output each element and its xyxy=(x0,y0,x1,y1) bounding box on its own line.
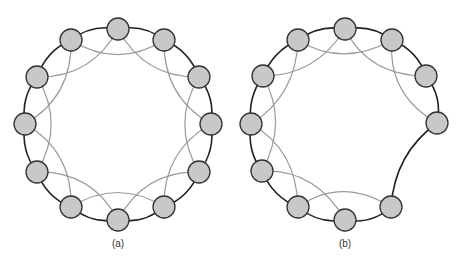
graph-node xyxy=(380,196,402,218)
graph-node xyxy=(252,65,274,87)
graph-node xyxy=(240,113,262,135)
graph-node xyxy=(188,66,210,88)
chord-edge xyxy=(262,76,276,171)
graph-node xyxy=(188,161,210,183)
graph-node xyxy=(26,161,48,183)
graph-node xyxy=(251,160,273,182)
graph-node xyxy=(153,29,175,51)
graph-node xyxy=(153,196,175,218)
graph-node xyxy=(107,18,129,40)
bridge-edge xyxy=(391,123,437,207)
chord-edge xyxy=(185,77,199,172)
chord-edge xyxy=(71,192,164,207)
graph-node xyxy=(426,112,448,134)
graph-node xyxy=(60,29,82,51)
chord-edge xyxy=(37,77,51,172)
graph-node xyxy=(334,209,356,231)
chord-edge xyxy=(71,40,164,55)
graph-node xyxy=(14,113,36,135)
graph-node xyxy=(200,113,222,135)
graph-node xyxy=(334,18,356,40)
graph-node xyxy=(287,29,309,51)
graph-node xyxy=(287,196,309,218)
figure-label-a: (a) xyxy=(112,238,124,249)
graph-node xyxy=(107,209,129,231)
chord-edge xyxy=(298,192,391,207)
graph-node xyxy=(381,29,403,51)
chord-edge xyxy=(298,40,392,54)
graph-canvas xyxy=(0,0,461,264)
graph-node xyxy=(60,196,82,218)
graph-node xyxy=(26,66,48,88)
graph-node xyxy=(415,65,437,87)
figure-label-b: (b) xyxy=(339,238,351,249)
